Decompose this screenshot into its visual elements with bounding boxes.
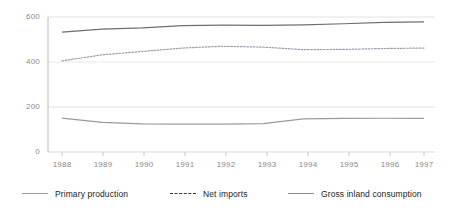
x-tick-label-1993: 1993 bbox=[247, 160, 287, 169]
x-tick-label-1991: 1991 bbox=[165, 160, 205, 169]
series-line-net-imports bbox=[62, 46, 424, 61]
dashed-line-swatch-icon bbox=[170, 189, 196, 199]
legend-label-net-imports: Net imports bbox=[203, 189, 248, 199]
gridlines-group bbox=[48, 17, 435, 152]
line-chart: 600 400 200 0 1988 1989 1990 1991 1992 1… bbox=[0, 0, 460, 208]
y-tick-label-400: 400 bbox=[6, 57, 40, 66]
x-tick-label-1990: 1990 bbox=[124, 160, 164, 169]
x-tick-label-1995: 1995 bbox=[329, 160, 369, 169]
y-tick-label-200: 200 bbox=[6, 102, 40, 111]
series-line-gross-inland-consumption bbox=[62, 22, 424, 32]
y-tick-label-600: 600 bbox=[6, 12, 40, 21]
chart-legend: Primary production Net imports Gross inl… bbox=[0, 182, 460, 208]
y-tick-label-0: 0 bbox=[6, 147, 40, 156]
chart-plot-area bbox=[0, 0, 460, 208]
solid-line-swatch-icon bbox=[22, 189, 48, 199]
x-tick-label-1994: 1994 bbox=[288, 160, 328, 169]
legend-item-net-imports[interactable]: Net imports bbox=[170, 187, 248, 201]
legend-label-primary-production: Primary production bbox=[55, 189, 128, 199]
legend-label-gross-inland-consumption: Gross inland consumption bbox=[321, 189, 422, 199]
x-axis-ticks-group bbox=[62, 152, 424, 156]
x-tick-label-1989: 1989 bbox=[83, 160, 123, 169]
series-line-primary-production bbox=[62, 118, 424, 124]
legend-item-gross-inland-consumption[interactable]: Gross inland consumption bbox=[288, 187, 422, 201]
x-tick-label-1992: 1992 bbox=[206, 160, 246, 169]
solid-line-swatch-icon bbox=[288, 189, 314, 199]
x-tick-label-1997: 1997 bbox=[404, 160, 444, 169]
x-tick-label-1988: 1988 bbox=[42, 160, 82, 169]
legend-item-primary-production[interactable]: Primary production bbox=[22, 187, 128, 201]
